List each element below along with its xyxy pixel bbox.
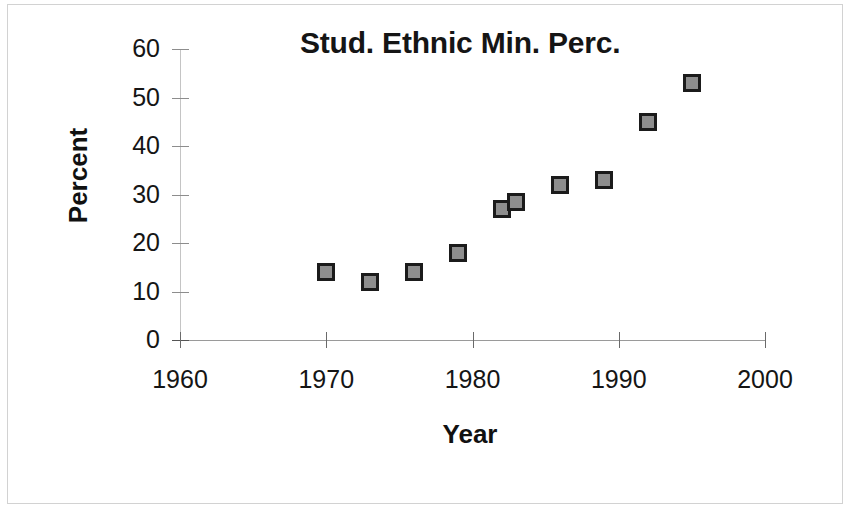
data-point <box>405 263 423 281</box>
x-tick-2000 <box>765 332 766 348</box>
x-tick-1970 <box>326 332 327 348</box>
y-tick-60 <box>172 49 189 50</box>
chart-title: Stud. Ethnic Min. Perc. <box>300 26 760 60</box>
x-axis-title: Year <box>380 419 560 450</box>
x-tick-1990 <box>619 332 620 348</box>
y-tick-50 <box>172 98 189 99</box>
y-tick-label-0: 0 <box>98 327 160 352</box>
y-axis-title: Percent <box>63 86 94 266</box>
x-tick-label-1970: 1970 <box>276 367 376 392</box>
y-tick-label-10: 10 <box>98 279 160 304</box>
x-tick-label-1960: 1960 <box>130 367 230 392</box>
y-tick-20 <box>172 243 189 244</box>
chart-page: Stud. Ethnic Min. Perc. 0102030405060 19… <box>0 0 849 511</box>
y-tick-label-30: 30 <box>98 182 160 207</box>
data-point <box>639 113 657 131</box>
data-point <box>595 171 613 189</box>
data-point <box>551 176 569 194</box>
data-point <box>361 273 379 291</box>
data-point <box>449 244 467 262</box>
scatter-chart: Stud. Ethnic Min. Perc. 0102030405060 19… <box>0 0 849 511</box>
y-tick-10 <box>172 292 189 293</box>
y-tick-label-20: 20 <box>98 230 160 255</box>
x-tick-label-1980: 1980 <box>423 367 523 392</box>
data-point <box>317 263 335 281</box>
y-tick-30 <box>172 195 189 196</box>
y-tick-40 <box>172 146 189 147</box>
data-point <box>683 74 701 92</box>
data-point <box>507 193 525 211</box>
x-tick-1960 <box>180 332 181 348</box>
y-tick-label-50: 50 <box>98 85 160 110</box>
y-tick-label-60: 60 <box>98 36 160 61</box>
x-tick-1980 <box>473 332 474 348</box>
x-tick-label-1990: 1990 <box>569 367 669 392</box>
x-tick-label-2000: 2000 <box>715 367 815 392</box>
y-tick-label-40: 40 <box>98 133 160 158</box>
